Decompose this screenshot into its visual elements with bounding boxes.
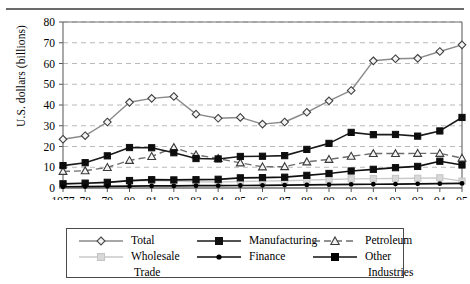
data-point <box>437 181 442 186</box>
y-tick-label: 60 <box>44 58 56 70</box>
data-point <box>193 155 199 161</box>
x-tick-label: 81 <box>146 195 158 200</box>
legend-label-total: Total <box>127 234 154 247</box>
data-point <box>393 182 398 187</box>
legend-item-petroleum: Petroleum <box>309 234 413 250</box>
data-point <box>282 153 288 159</box>
data-point <box>415 133 421 139</box>
x-tick-label: 95 <box>456 195 468 200</box>
data-point <box>327 182 332 187</box>
data-point <box>458 154 466 161</box>
data-point <box>326 176 332 182</box>
x-tick-label: 92 <box>390 195 402 200</box>
data-point <box>349 182 354 187</box>
x-tick-label: 91 <box>368 195 380 200</box>
data-point <box>459 162 465 168</box>
data-point <box>194 183 199 188</box>
data-point <box>415 175 421 181</box>
data-point <box>259 120 267 128</box>
legend-symbol-petroleum <box>309 234 361 247</box>
data-point <box>325 97 333 105</box>
data-point <box>60 162 66 168</box>
data-point <box>370 132 376 138</box>
line-chart: 0102030405060708019777879808182838485868… <box>0 14 470 200</box>
data-point <box>149 177 155 183</box>
x-tick-label: 1977 <box>52 195 75 200</box>
x-tick-label: 79 <box>102 195 114 200</box>
data-point <box>436 48 444 56</box>
x-tick-label: 78 <box>79 195 91 200</box>
data-point <box>171 177 177 183</box>
data-point <box>282 174 288 180</box>
data-point <box>348 176 354 182</box>
data-point <box>214 114 222 122</box>
data-point <box>415 181 420 186</box>
top-rule-divider <box>6 8 464 10</box>
data-point <box>282 183 287 188</box>
data-point <box>59 135 67 143</box>
legend-item-wholesale-trade-cont: Trade <box>75 266 193 282</box>
legend-item-finance: Finance <box>193 250 309 266</box>
legend-label-other-cont: Industries <box>309 266 413 279</box>
data-point <box>237 175 243 181</box>
data-point <box>237 153 243 159</box>
x-tick-label: 88 <box>301 195 313 200</box>
legend-label-manufacturing: Manufacturing <box>245 234 317 247</box>
x-tick-label: 82 <box>168 195 180 200</box>
data-point <box>303 158 311 165</box>
data-point <box>259 153 265 159</box>
data-point <box>171 150 177 156</box>
data-point <box>304 146 310 152</box>
y-tick-label: 70 <box>44 37 56 49</box>
data-point <box>61 184 66 189</box>
chart-legend: Total Manufacturing Petroleum <box>66 228 404 278</box>
legend-symbol-wholesale-trade <box>75 250 127 263</box>
legend-item-other-industries-cont: Industries <box>309 266 413 282</box>
data-point <box>215 176 221 182</box>
data-point <box>126 144 132 150</box>
data-point <box>459 114 465 120</box>
data-point <box>82 160 88 166</box>
data-point <box>460 181 465 186</box>
data-point <box>149 184 154 189</box>
data-point <box>415 163 421 169</box>
data-point <box>392 175 398 181</box>
data-point <box>193 177 199 183</box>
data-point <box>127 184 132 189</box>
data-point <box>304 172 310 178</box>
legend-label-finance: Finance <box>245 250 285 263</box>
data-point <box>216 183 221 188</box>
x-tick-label: 80 <box>124 195 136 200</box>
data-point <box>392 131 398 137</box>
data-point <box>281 118 289 126</box>
legend-label-petroleum: Petroleum <box>361 234 412 247</box>
y-tick-label: 30 <box>44 120 56 132</box>
x-tick-label: 89 <box>323 195 335 200</box>
data-point <box>104 153 110 159</box>
x-tick-label: 94 <box>434 195 446 200</box>
series-total <box>59 41 466 143</box>
legend-label-wholesale: Wholesale <box>127 250 180 263</box>
data-point <box>437 175 443 181</box>
data-point <box>326 140 332 146</box>
data-point <box>348 168 354 174</box>
data-point <box>238 183 243 188</box>
y-tick-label: 80 <box>44 16 56 28</box>
y-tick-label: 50 <box>44 78 56 90</box>
data-point <box>458 41 466 49</box>
data-point <box>437 128 443 134</box>
data-point <box>437 158 443 164</box>
legend-label-wholesale-cont: Trade <box>75 266 160 279</box>
data-point <box>259 175 265 181</box>
data-point <box>371 182 376 187</box>
legend-spacer <box>193 266 309 282</box>
legend-item-other-industries: Other <box>309 250 413 266</box>
data-point <box>83 184 88 189</box>
data-point <box>392 55 400 63</box>
y-axis-label: U.S. dollars (billions) <box>15 1 27 151</box>
data-point <box>171 184 176 189</box>
data-point <box>149 145 155 151</box>
data-point <box>304 182 309 187</box>
data-point <box>370 166 376 172</box>
legend-item-manufacturing: Manufacturing <box>193 234 309 250</box>
